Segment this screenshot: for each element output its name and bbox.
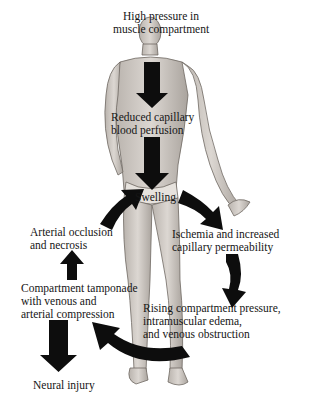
node-swelling: Swelling [135, 191, 176, 204]
node-line: Ischemia and increased [172, 228, 279, 241]
node-neural-injury: Neural injury [33, 379, 95, 392]
node-line: Reduced capillary [111, 111, 194, 124]
anatomical-figure [0, 0, 321, 415]
arrow-ischemia-to-rising-pressure [222, 254, 246, 308]
node-reduced-perfusion: Reduced capillary blood perfusion [111, 111, 194, 137]
node-line: and venous obstruction [143, 328, 281, 341]
arrow-tamponade-to-occlusion [60, 250, 84, 280]
node-line: capillary permeability [172, 241, 279, 254]
node-line: and necrosis [30, 239, 113, 252]
node-line: muscle compartment [113, 23, 209, 36]
node-line: Neural injury [33, 379, 95, 392]
node-high-pressure: High pressure in muscle compartment [113, 10, 209, 36]
node-line: High pressure in [113, 10, 209, 23]
node-arterial-occlusion: Arterial occlusion and necrosis [30, 226, 113, 252]
node-line: Swelling [135, 191, 176, 204]
node-tamponade: Compartment tamponade with venous and ar… [21, 282, 138, 321]
node-line: Compartment tamponade [21, 282, 138, 295]
node-ischemia: Ischemia and increased capillary permeab… [172, 228, 279, 254]
arrow-tamponade-to-neural [40, 320, 77, 372]
node-line: with venous and [21, 295, 138, 308]
node-line: Arterial occlusion [30, 226, 113, 239]
node-rising-pressure: Rising compartment pressure, intramuscul… [143, 302, 281, 341]
arrow-swelling-to-ischemia [178, 190, 223, 230]
node-line: blood perfusion [111, 124, 194, 137]
node-line: arterial compression [21, 308, 138, 321]
node-line: intramuscular edema, [143, 315, 281, 328]
node-line: Rising compartment pressure, [143, 302, 281, 315]
